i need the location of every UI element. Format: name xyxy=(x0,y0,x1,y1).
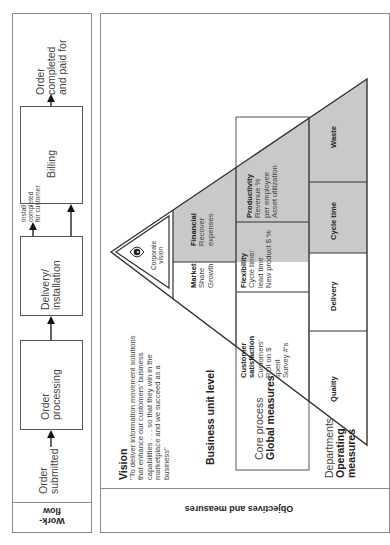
workflow-arrows xyxy=(0,0,378,545)
